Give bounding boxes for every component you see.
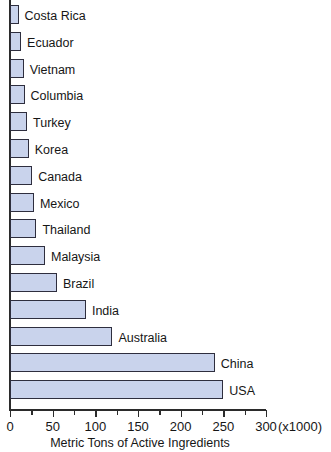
bar-row: India <box>0 300 331 322</box>
x-axis-major-tick <box>181 410 182 417</box>
bar-category-label: Brazil <box>63 278 94 291</box>
bar-category-label: China <box>221 358 254 371</box>
x-axis-tick-label: 250 <box>212 420 234 433</box>
bar-row: Thailand <box>0 219 331 241</box>
x-axis-major-tick <box>95 410 96 417</box>
bar-row: Malaysia <box>0 246 331 268</box>
bar <box>10 327 112 346</box>
bar-category-label: Malaysia <box>51 251 100 264</box>
x-axis-tick-label: 0 <box>6 420 13 433</box>
bar-category-label: USA <box>229 385 255 398</box>
x-axis-tick-label: 50 <box>45 420 59 433</box>
x-axis-minor-tick <box>202 410 203 415</box>
bar <box>10 219 36 238</box>
bar-row: USA <box>0 380 331 402</box>
bar-category-label: Ecuador <box>27 37 74 50</box>
bar-row: Vietnam <box>0 59 331 81</box>
bar-row: Brazil <box>0 273 331 295</box>
bar-row: Canada <box>0 166 331 188</box>
axis-multiplier-label: (x1000) <box>278 420 322 433</box>
bar-row: Columbia <box>0 85 331 107</box>
bar <box>10 32 21 51</box>
bar-category-label: Australia <box>118 331 167 344</box>
x-axis-tick-label: 100 <box>84 420 106 433</box>
bar <box>10 139 29 158</box>
horizontal-bar-chart: Costa RicaEcuadorVietnamColumbiaTurkeyKo… <box>0 0 331 452</box>
bar <box>10 273 57 292</box>
bar <box>10 246 45 265</box>
x-axis-minor-tick <box>117 410 118 415</box>
x-axis-major-tick <box>138 410 139 417</box>
x-axis-major-tick <box>223 410 224 417</box>
bar-row: China <box>0 353 331 375</box>
bar-row: Costa Rica <box>0 5 331 27</box>
bar <box>10 59 24 78</box>
bar-row: Korea <box>0 139 331 161</box>
x-axis-minor-tick <box>245 410 246 415</box>
x-axis-tick-label: 150 <box>127 420 149 433</box>
x-axis-minor-tick <box>159 410 160 415</box>
bar-category-label: Thailand <box>42 224 90 237</box>
bar-category-label: Korea <box>35 144 68 157</box>
bar-category-label: India <box>92 305 119 318</box>
x-axis-minor-tick <box>74 410 75 415</box>
bar-category-label: Turkey <box>33 117 71 130</box>
bar-category-label: Vietnam <box>30 63 76 76</box>
x-axis-tick-label: 200 <box>170 420 192 433</box>
bar-category-label: Canada <box>38 171 82 184</box>
bar <box>10 85 25 104</box>
bar-row: Turkey <box>0 112 331 134</box>
x-axis-tick-label: 300 <box>255 420 277 433</box>
x-axis-major-tick <box>266 410 267 417</box>
bar <box>10 380 223 399</box>
bar <box>10 193 34 212</box>
bar-category-label: Costa Rica <box>25 10 86 23</box>
x-axis-major-tick <box>10 410 11 417</box>
x-axis-title: Metric Tons of Active Ingredients <box>0 437 280 450</box>
x-axis-major-tick <box>53 410 54 417</box>
plot-area: Costa RicaEcuadorVietnamColumbiaTurkeyKo… <box>0 0 331 410</box>
bar <box>10 353 215 372</box>
bar <box>10 166 32 185</box>
bar <box>10 300 86 319</box>
bar-row: Mexico <box>0 193 331 215</box>
bar-row: Ecuador <box>0 32 331 54</box>
x-axis-minor-tick <box>31 410 32 415</box>
bar <box>10 112 27 131</box>
bar-category-label: Mexico <box>40 197 80 210</box>
bar <box>10 5 19 24</box>
bar-row: Australia <box>0 327 331 349</box>
bar-category-label: Columbia <box>31 90 84 103</box>
